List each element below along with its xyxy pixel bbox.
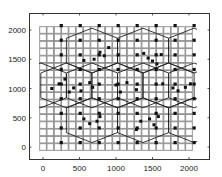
data-point xyxy=(117,24,120,27)
data-point xyxy=(174,112,177,115)
data-point xyxy=(174,39,177,42)
data-point xyxy=(193,68,196,71)
data-point xyxy=(93,58,96,61)
data-point xyxy=(98,126,101,129)
data-point xyxy=(79,83,82,86)
data-point xyxy=(136,39,139,42)
data-point xyxy=(174,68,177,71)
data-point xyxy=(117,39,120,42)
y-tick-label: 2000 xyxy=(8,26,26,35)
data-point xyxy=(139,120,142,123)
data-point xyxy=(193,83,196,86)
data-point xyxy=(60,39,63,42)
data-point xyxy=(174,53,177,56)
data-point xyxy=(96,120,99,123)
data-point xyxy=(60,53,63,56)
data-point xyxy=(136,53,139,56)
data-point xyxy=(79,126,82,129)
x-axis-tick-labels: 0500100015002000 xyxy=(41,164,199,173)
data-point xyxy=(135,128,138,131)
data-point xyxy=(174,24,177,27)
data-point xyxy=(193,24,196,27)
x-tick-label: 500 xyxy=(73,164,87,173)
y-tick-label: 500 xyxy=(13,114,27,123)
data-point xyxy=(135,88,138,91)
data-point xyxy=(79,68,82,71)
data-point xyxy=(193,97,196,100)
data-point xyxy=(193,126,196,129)
chart: 0500100015002000 0500100015002000 xyxy=(0,0,222,177)
data-point xyxy=(117,126,120,129)
data-point xyxy=(125,81,128,84)
data-point xyxy=(193,112,196,115)
data-point xyxy=(72,86,75,89)
data-point xyxy=(142,52,145,55)
data-point xyxy=(171,86,174,89)
data-point xyxy=(117,141,120,144)
data-point xyxy=(193,53,196,56)
data-point xyxy=(184,86,187,89)
data-point xyxy=(136,141,139,144)
data-point xyxy=(88,122,91,125)
x-tick-label: 2000 xyxy=(180,164,198,173)
data-point xyxy=(98,115,101,118)
data-point xyxy=(98,24,101,27)
data-point xyxy=(79,53,82,56)
data-point xyxy=(136,112,139,115)
data-point xyxy=(155,39,158,42)
data-point xyxy=(98,51,101,54)
data-point xyxy=(63,78,66,81)
data-point xyxy=(103,54,106,57)
data-point xyxy=(79,141,82,144)
data-point xyxy=(117,68,120,71)
data-point xyxy=(155,141,158,144)
data-point xyxy=(155,126,158,129)
data-point xyxy=(174,83,177,86)
data-point xyxy=(60,141,63,144)
data-point xyxy=(155,97,158,100)
data-point xyxy=(155,53,158,56)
y-tick-label: 0 xyxy=(22,143,27,152)
x-tick-label: 0 xyxy=(41,164,46,173)
data-point xyxy=(82,117,85,120)
data-point xyxy=(136,97,139,100)
data-point xyxy=(98,112,101,115)
y-tick-label: 1500 xyxy=(8,55,26,64)
data-point xyxy=(79,39,82,42)
data-point xyxy=(115,83,118,86)
data-point xyxy=(157,115,160,118)
data-point xyxy=(50,87,53,90)
data-point xyxy=(161,82,164,85)
data-point xyxy=(98,141,101,144)
data-point xyxy=(82,59,85,62)
data-point xyxy=(174,141,177,144)
data-point xyxy=(119,91,122,94)
data-point xyxy=(60,126,63,129)
data-point xyxy=(98,97,101,100)
data-point xyxy=(79,89,82,92)
data-point xyxy=(79,97,82,100)
y-axis-tick-labels: 0500100015002000 xyxy=(8,26,26,152)
data-point xyxy=(155,62,158,65)
data-point xyxy=(151,60,154,63)
data-point xyxy=(155,68,158,71)
data-point xyxy=(60,97,63,100)
data-point xyxy=(88,81,91,84)
data-point xyxy=(136,83,139,86)
data-point xyxy=(189,82,192,85)
data-point xyxy=(155,24,158,27)
data-point xyxy=(147,57,150,60)
data-point xyxy=(152,123,155,126)
data-point xyxy=(98,68,101,71)
data-point xyxy=(193,141,196,144)
data-point xyxy=(136,24,139,27)
data-point xyxy=(107,46,110,49)
data-point xyxy=(117,112,120,115)
data-point xyxy=(174,97,177,100)
y-tick-label: 1000 xyxy=(8,85,26,94)
data-point xyxy=(68,91,71,94)
data-point xyxy=(58,82,61,85)
data-point xyxy=(155,83,158,86)
data-point xyxy=(91,86,94,89)
data-point xyxy=(79,24,82,27)
